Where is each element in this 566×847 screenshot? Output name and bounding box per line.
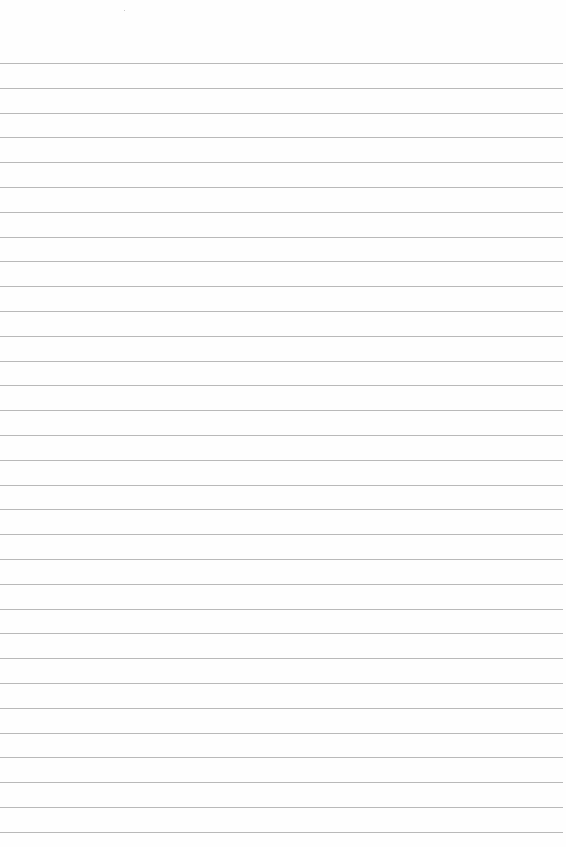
ruled-line: [0, 137, 563, 138]
ruled-line: [0, 485, 563, 486]
ruled-line: [0, 509, 563, 510]
ruled-line: [0, 782, 563, 783]
ruled-line: [0, 261, 563, 262]
ruled-line: [0, 584, 563, 585]
ruled-line: [0, 63, 563, 64]
ruled-line: [0, 832, 563, 833]
ruled-line: [0, 88, 563, 89]
ruled-line: [0, 336, 563, 337]
ruled-line: [0, 286, 563, 287]
ruled-line: [0, 807, 563, 808]
ruled-line: [0, 460, 563, 461]
ruled-line: [0, 162, 563, 163]
paper-speck: [124, 10, 125, 11]
ruled-line: [0, 683, 563, 684]
ruled-line: [0, 385, 563, 386]
ruled-line: [0, 534, 563, 535]
ruled-line: [0, 311, 563, 312]
ruled-line: [0, 410, 563, 411]
ruled-line: [0, 212, 563, 213]
lined-paper-sheet: [0, 0, 566, 847]
ruled-line: [0, 435, 563, 436]
ruled-line: [0, 658, 563, 659]
ruled-line: [0, 187, 563, 188]
ruled-line: [0, 757, 563, 758]
ruled-line: [0, 361, 563, 362]
ruled-line: [0, 559, 563, 560]
ruled-line: [0, 633, 563, 634]
ruled-line: [0, 609, 563, 610]
ruled-line: [0, 708, 563, 709]
ruled-line: [0, 237, 563, 238]
ruled-line: [0, 113, 563, 114]
ruled-line: [0, 733, 563, 734]
